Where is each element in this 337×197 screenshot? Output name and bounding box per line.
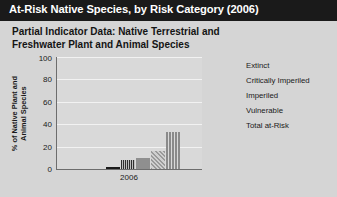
gridline-20 — [57, 147, 202, 148]
legend-item-extinct[interactable]: Extinct — [229, 58, 335, 73]
y-axis-title: % of Native Plant and Animal Species — [11, 62, 28, 166]
legend-item-imperiled[interactable]: Imperiled — [229, 88, 335, 103]
legend-item-vulnerable[interactable]: Vulnerable — [229, 103, 335, 118]
y-tick-label-100: 100 — [39, 54, 52, 63]
x-axis-label: 2006 — [56, 173, 202, 182]
legend-swatch-imperiled-icon — [229, 90, 240, 101]
y-axis-title-line2: Animal Species — [20, 62, 29, 166]
legend-item-total-at-risk[interactable]: Total at-Risk — [229, 118, 335, 133]
legend-label-imperiled: Imperiled — [246, 91, 278, 100]
y-tick-label-20: 20 — [43, 143, 52, 152]
chart-page: At-Risk Native Species, by Risk Category… — [0, 0, 337, 197]
gridline-100 — [57, 57, 202, 58]
bar-total-at-risk[interactable] — [166, 132, 180, 169]
y-tick-label-40: 40 — [43, 120, 52, 129]
plot-background — [56, 57, 202, 170]
legend-swatch-total-at-risk-icon — [229, 120, 240, 131]
axes: 100 80 60 40 20 0 2006 — [56, 57, 202, 170]
legend-label-critically-imperiled: Critically Imperiled — [246, 76, 310, 85]
legend-label-vulnerable: Vulnerable — [246, 106, 283, 115]
gridline-40 — [57, 124, 202, 125]
legend-swatch-extinct-icon — [229, 60, 240, 71]
chart-legend: Extinct Critically Imperiled Imperiled V… — [229, 58, 335, 133]
y-tick-label-0: 0 — [48, 165, 52, 174]
bar-critically-imperiled[interactable] — [121, 160, 135, 169]
x-axis-line — [56, 169, 202, 170]
y-tick-label-80: 80 — [43, 75, 52, 84]
gridline-60 — [57, 102, 202, 103]
chart-subtitle-line1: Partial Indicator Data: Native Terrestri… — [12, 26, 220, 37]
gridline-80 — [57, 79, 202, 80]
legend-item-critically-imperiled[interactable]: Critically Imperiled — [229, 73, 335, 88]
legend-label-extinct: Extinct — [246, 61, 269, 70]
chart-plot-area: % of Native Plant and Animal Species 100… — [10, 57, 215, 192]
chart-subtitle-line2: Freshwater Plant and Animal Species — [12, 38, 242, 51]
bar-vulnerable[interactable] — [151, 151, 165, 169]
header-bar: At-Risk Native Species, by Risk Category… — [0, 0, 337, 21]
bar-imperiled[interactable] — [136, 158, 150, 169]
y-tick-label-60: 60 — [43, 98, 52, 107]
page-title: At-Risk Native Species, by Risk Category… — [9, 3, 259, 15]
legend-swatch-critically-imperiled-icon — [229, 75, 240, 86]
chart-subtitle: Partial Indicator Data: Native Terrestri… — [12, 25, 242, 51]
legend-label-total-at-risk: Total at-Risk — [246, 121, 289, 130]
legend-swatch-vulnerable-icon — [229, 105, 240, 116]
y-axis-line — [56, 57, 57, 170]
